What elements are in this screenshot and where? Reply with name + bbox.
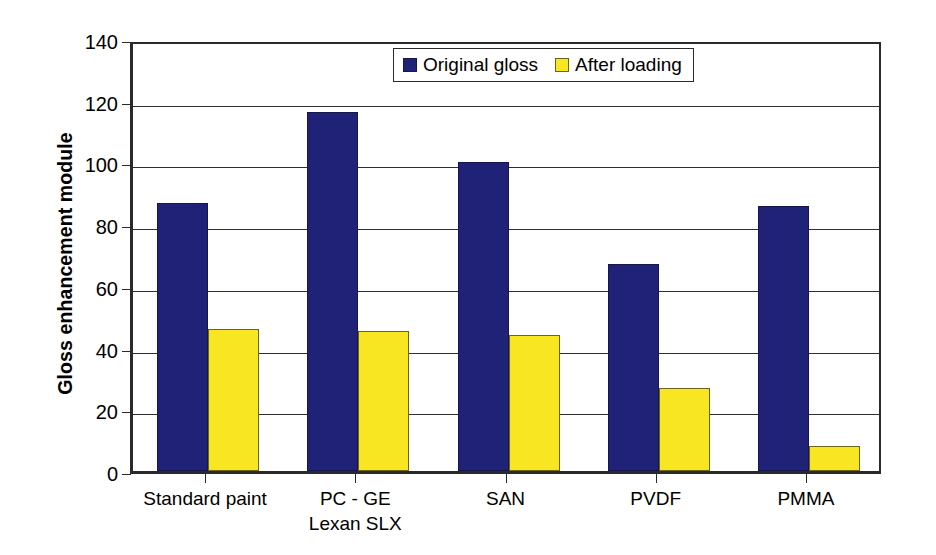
chart-legend: Original gloss After loading [393, 48, 694, 82]
yellow-square-icon [555, 58, 569, 72]
bar-after-loading-2 [509, 335, 560, 471]
plot-area [130, 42, 881, 474]
bar-after-loading-3 [659, 388, 710, 471]
bar-after-loading-1 [358, 331, 409, 471]
x-axis-tick-4 [806, 474, 807, 483]
x-axis-tick-1 [355, 474, 356, 483]
bar-original-gloss-3 [608, 264, 659, 471]
legend-item-after-loading: After loading [555, 54, 682, 76]
y-axis-label-120: 120 [48, 92, 118, 115]
bar-original-gloss-0 [157, 203, 208, 471]
x-axis-tick-0 [205, 474, 206, 483]
bar-original-gloss-1 [307, 112, 358, 471]
y-axis-label-80: 80 [48, 216, 118, 239]
legend-label-after-loading: After loading [575, 54, 682, 76]
y-axis-tick-0 [122, 474, 131, 475]
x-axis-label-4: PMMA [711, 486, 901, 511]
x-axis-tick-2 [506, 474, 507, 483]
y-axis-label-140: 140 [48, 31, 118, 54]
y-axis-label-20: 20 [48, 401, 118, 424]
y-axis-label-40: 40 [48, 339, 118, 362]
bar-after-loading-4 [809, 446, 860, 471]
blue-square-icon [403, 58, 417, 72]
x-axis-tick-3 [656, 474, 657, 483]
y-axis-label-100: 100 [48, 154, 118, 177]
y-axis-label-0: 0 [48, 463, 118, 486]
y-axis-label-60: 60 [48, 277, 118, 300]
bar-after-loading-0 [208, 329, 259, 471]
legend-item-original-gloss: Original gloss [403, 54, 538, 76]
gridline-120 [133, 106, 879, 107]
gloss-enhancement-bar-chart: Gloss enhancement module 020406080100120… [0, 0, 936, 555]
bar-original-gloss-2 [458, 162, 509, 471]
legend-label-original-gloss: Original gloss [423, 54, 538, 76]
bar-original-gloss-4 [758, 206, 809, 471]
